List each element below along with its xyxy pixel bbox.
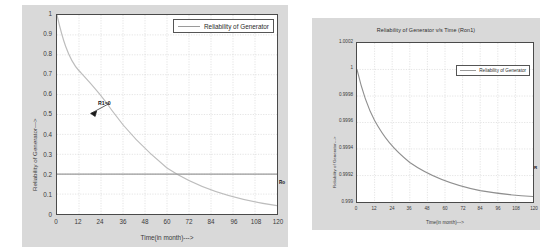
left-xtick-4: 48 [135,218,155,225]
left-legend: Reliability of Generator [173,19,274,33]
right-legend: Reliability of Generator [456,65,530,76]
figure-left: Reliability of Generator---> Time(in mon… [22,5,288,247]
left-ytick-3: 0.3 [24,151,52,158]
right-xtick-5: 60 [437,206,453,211]
right-xtick-9: 108 [508,206,524,211]
right-legend-label: Reliability of Generator [479,68,526,73]
left-ytick-0: 0 [24,211,52,218]
left-xtick-9: 108 [246,218,266,225]
right-legend-line-icon [460,70,476,71]
right-xtick-0: 0 [348,206,364,211]
left-plot-svg [57,15,277,214]
right-xtick-4: 48 [419,206,435,211]
right-ytick-0: 0.999 [312,199,353,204]
right-plot-area: Reliability of Generator [356,42,534,203]
left-xtick-1: 12 [68,218,88,225]
left-ytick-10: 1 [24,10,52,17]
right-marker-label: R [534,165,537,170]
left-ytick-2: 0.2 [24,171,52,178]
right-xtick-1: 12 [366,206,382,211]
left-xtick-5: 60 [157,218,177,225]
left-ytick-1: 0.1 [24,191,52,198]
left-xtick-10: 120 [268,218,288,225]
right-xtick-2: 24 [384,206,400,211]
left-xtick-0: 0 [46,218,66,225]
left-xtick-2: 24 [90,218,110,225]
right-ytick-1: 0.9992 [312,172,353,177]
right-xtick-7: 84 [472,206,488,211]
left-ro-marker-label: Ro [279,180,285,185]
left-xtick-8: 96 [224,218,244,225]
left-ytick-9: 0.9 [24,30,52,37]
right-xtick-6: 72 [455,206,471,211]
left-xtick-3: 36 [113,218,133,225]
left-annotation-label: R1=0 [98,100,111,106]
left-ytick-8: 0.8 [24,50,52,57]
right-ytick-2: 0.9994 [312,145,353,150]
left-plot-area: Reliability of Generator [56,14,278,215]
right-xtick-8: 96 [490,206,506,211]
left-ytick-5: 0.5 [24,110,52,117]
right-ytick-6: 1.0002 [312,39,353,44]
right-ytick-3: 0.9996 [312,118,353,123]
right-chart-title: Reliability of Generator v/s Time (Ron1) [312,27,540,33]
right-xtick-10: 120 [526,206,542,211]
left-xtick-7: 84 [201,218,221,225]
left-legend-label: Reliability of Generator [204,23,269,30]
left-legend-line-icon [178,26,200,27]
left-ytick-6: 0.6 [24,90,52,97]
figure-right: Reliability of Generator v/s Time (Ron1)… [312,18,540,230]
left-xtick-6: 72 [179,218,199,225]
right-ytick-5: 1 [312,65,353,70]
right-ytick-4: 0.9998 [312,92,353,97]
left-ytick-4: 0.4 [24,131,52,138]
right-xtick-3: 36 [401,206,417,211]
left-x-axis-label: Time(in month)---> [56,234,278,241]
left-gridlines [57,15,277,214]
right-x-axis-label: Time(in month)---> [356,220,534,225]
left-ytick-7: 0.7 [24,70,52,77]
